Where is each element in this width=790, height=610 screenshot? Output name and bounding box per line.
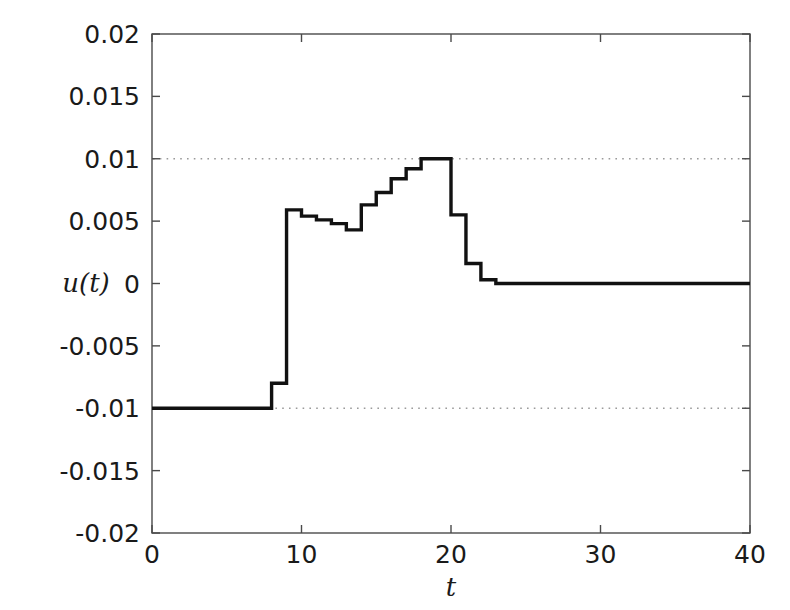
y-tick-label: 0: [124, 270, 140, 299]
x-axis-title: t: [446, 572, 457, 602]
chart-figure: 010203040 -0.02-0.015-0.01-0.00500.0050.…: [0, 0, 790, 610]
y-tick-label: -0.015: [59, 457, 140, 486]
y-tick-label: 0.01: [84, 145, 140, 174]
x-tick-label: 10: [286, 540, 318, 569]
y-tick-label: 0.005: [68, 207, 140, 236]
x-tick-label: 20: [435, 540, 467, 569]
y-tick-label: 0.02: [84, 20, 140, 49]
x-tick-label: 30: [585, 540, 617, 569]
plot-canvas: 010203040 -0.02-0.015-0.01-0.00500.0050.…: [0, 0, 790, 610]
y-axis-title: u(t): [62, 268, 109, 298]
y-tick-label: -0.02: [75, 519, 140, 548]
y-tick-label: -0.005: [59, 332, 140, 361]
y-tick-label: 0.015: [68, 82, 140, 111]
x-tick-label: 0: [144, 540, 160, 569]
y-tick-label: -0.01: [75, 394, 140, 423]
x-tick-label: 40: [734, 540, 766, 569]
